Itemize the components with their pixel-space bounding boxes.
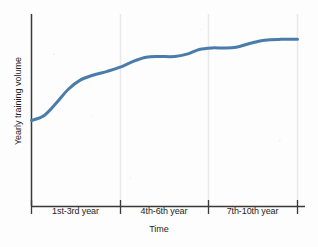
x-tick-label-3: 7th-10th year: [208, 206, 297, 216]
x-tick-label-2: 4th-6th year: [120, 206, 208, 216]
axes: [31, 14, 305, 207]
gridlines: [121, 14, 298, 206]
x-axis-title: Time: [0, 224, 318, 234]
x-tick-label-1: 1st-3rd year: [31, 206, 120, 216]
training-volume-curve: [32, 39, 298, 120]
training-volume-chart: 1st-3rd year 4th-6th year 7th-10th year …: [0, 0, 318, 247]
y-axis-title: Yearly training volume: [13, 21, 23, 181]
